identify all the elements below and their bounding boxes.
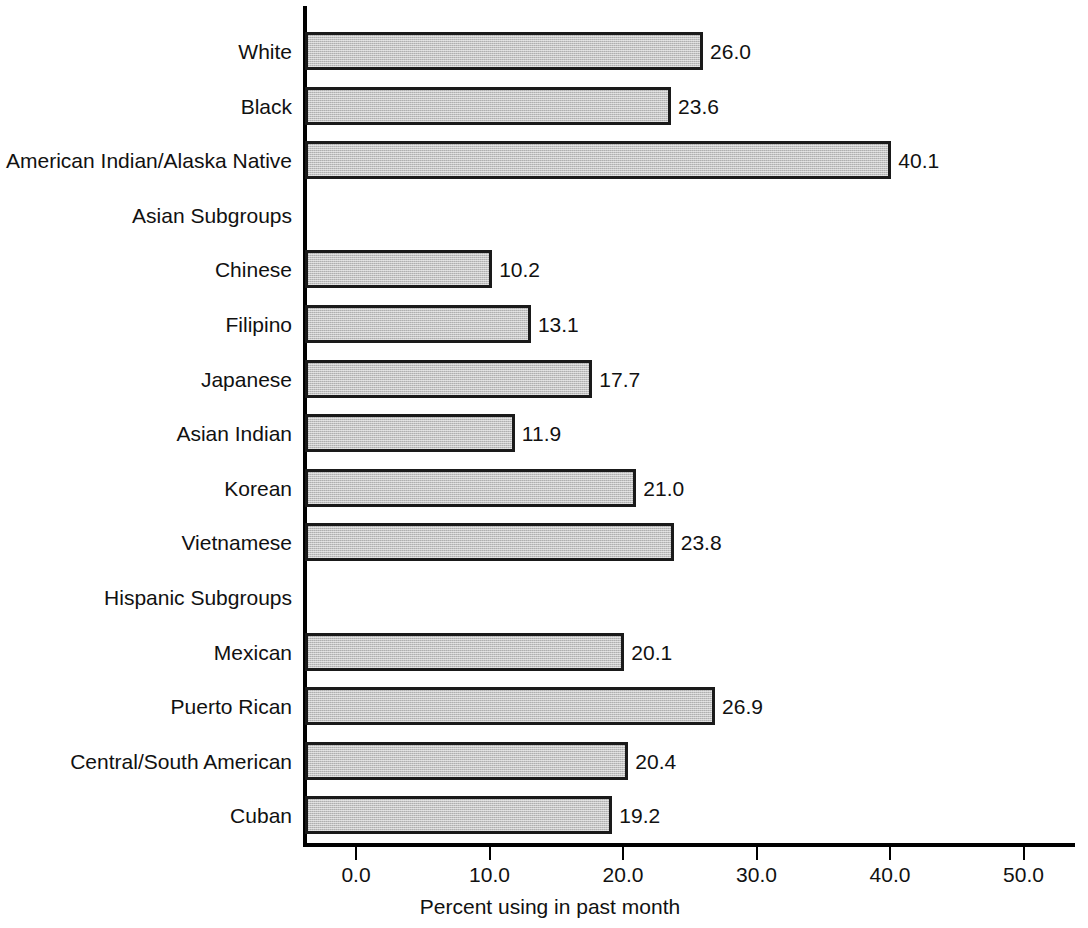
bar bbox=[305, 141, 891, 179]
category-group-header: Asian Subgroups bbox=[132, 204, 292, 225]
x-axis-tick-label: 0.0 bbox=[341, 864, 370, 885]
category-label: Cuban bbox=[230, 805, 292, 826]
bar-value-label: 26.0 bbox=[710, 41, 751, 62]
category-label: Filipino bbox=[225, 314, 292, 335]
x-axis-title-text: Percent using in past month bbox=[420, 896, 680, 917]
x-axis-tick bbox=[889, 847, 891, 860]
x-axis-tick bbox=[489, 847, 491, 860]
category-label: Korean bbox=[224, 477, 292, 498]
bar bbox=[305, 414, 515, 452]
bar-value-label: 26.9 bbox=[722, 696, 763, 717]
bar-value-label: 10.2 bbox=[499, 259, 540, 280]
category-label: White bbox=[238, 41, 292, 62]
bar-value-label: 20.1 bbox=[631, 641, 672, 662]
x-axis-tick bbox=[622, 847, 624, 860]
bar-value-label: 23.8 bbox=[681, 532, 722, 553]
x-axis-line bbox=[303, 843, 1075, 847]
x-axis-tick bbox=[756, 847, 758, 860]
category-label: Chinese bbox=[215, 259, 292, 280]
bar-value-label: 23.6 bbox=[678, 95, 719, 116]
bar bbox=[305, 523, 674, 561]
bar-chart-figure: White26.0Black23.6American Indian/Alaska… bbox=[0, 0, 1088, 928]
x-axis-tick-label: 30.0 bbox=[736, 864, 777, 885]
category-label: Central/South American bbox=[70, 750, 292, 771]
bar bbox=[305, 742, 628, 780]
bar bbox=[305, 360, 592, 398]
category-label: Mexican bbox=[214, 641, 292, 662]
bar bbox=[305, 469, 636, 507]
x-axis-title: Percent using in past month bbox=[0, 896, 1088, 917]
category-label: Asian Indian bbox=[176, 423, 292, 444]
bar bbox=[305, 250, 492, 288]
category-group-header: Hispanic Subgroups bbox=[104, 587, 292, 608]
x-axis-tick-label: 50.0 bbox=[1003, 864, 1044, 885]
bar-value-label: 20.4 bbox=[635, 750, 676, 771]
bar-value-label: 11.9 bbox=[522, 423, 561, 444]
bar bbox=[305, 687, 715, 725]
bar bbox=[305, 633, 624, 671]
bar-value-label: 13.1 bbox=[538, 314, 579, 335]
x-axis-tick bbox=[355, 847, 357, 860]
category-label: Black bbox=[241, 95, 292, 116]
x-axis-tick-label: 40.0 bbox=[870, 864, 911, 885]
bar-value-label: 19.2 bbox=[619, 805, 660, 826]
bar-value-label: 17.7 bbox=[599, 368, 640, 389]
category-label: Japanese bbox=[201, 368, 292, 389]
bar-value-label: 21.0 bbox=[643, 477, 684, 498]
x-axis-tick-label: 10.0 bbox=[469, 864, 510, 885]
bar bbox=[305, 796, 612, 834]
bar bbox=[305, 305, 531, 343]
bar bbox=[305, 32, 703, 70]
category-label: Puerto Rican bbox=[171, 696, 292, 717]
bar bbox=[305, 87, 671, 125]
x-axis-tick-label: 20.0 bbox=[603, 864, 644, 885]
category-label: American Indian/Alaska Native bbox=[6, 150, 292, 171]
x-axis-tick bbox=[1023, 847, 1025, 860]
category-label: Vietnamese bbox=[181, 532, 292, 553]
bar-value-label: 40.1 bbox=[898, 150, 939, 171]
